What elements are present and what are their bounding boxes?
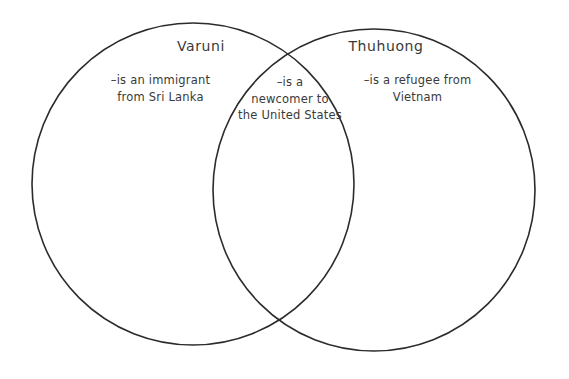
venn-right-set-body: –is a refugee from Vietnam <box>345 72 490 105</box>
venn-circles-graphic <box>0 0 569 379</box>
venn-left-set-title: Varuni <box>131 36 271 56</box>
venn-intersection-body: –is a newcomer to the United States <box>228 74 352 124</box>
venn-right-set-title: Thuhuong <box>316 36 456 56</box>
venn-left-set-body: –is an immigrant from Sri Lanka <box>88 72 233 105</box>
venn-diagram-canvas: Varuni –is an immigrant from Sri Lanka T… <box>0 0 569 379</box>
